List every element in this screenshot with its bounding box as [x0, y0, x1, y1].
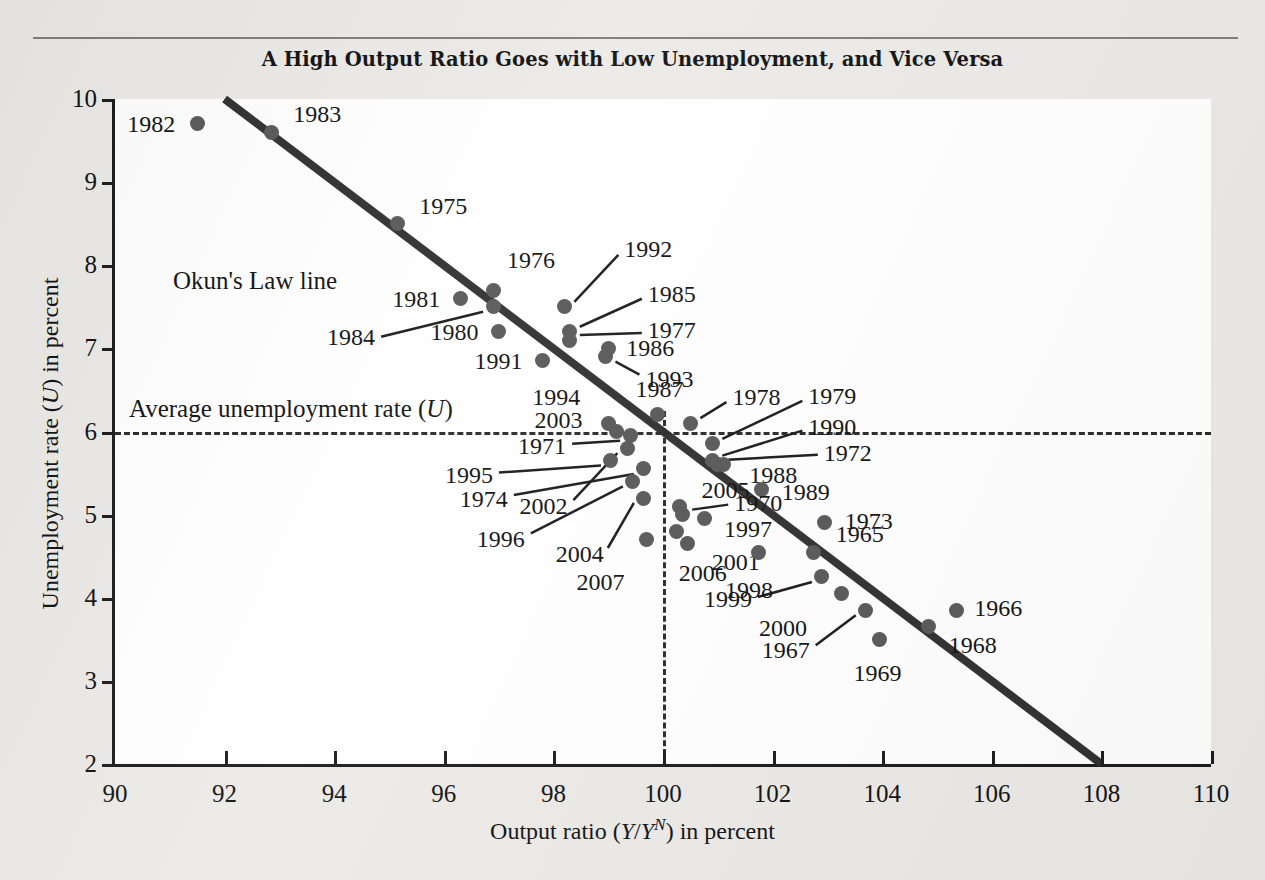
x-tick-label-94: 94 [322, 780, 347, 808]
data-point-1977 [562, 333, 577, 348]
point-label-2003: 2003 [534, 408, 582, 432]
y-tick-label-5: 5 [85, 501, 98, 529]
x-tick-label-102: 102 [754, 780, 792, 808]
x-tick-92 [225, 751, 228, 764]
y-tick-label-3: 3 [85, 667, 98, 695]
x-tick-94 [334, 751, 337, 764]
y-axis-title-suffix: ) in percent [37, 278, 63, 387]
point-label-1969: 1969 [853, 661, 901, 685]
x-axis-title-y: Y [621, 818, 634, 844]
point-label-1967: 1967 [762, 638, 810, 662]
x-tick-label-100: 100 [644, 780, 682, 808]
leader-line-1993 [615, 362, 639, 375]
data-point-1968 [921, 619, 936, 634]
data-point-1991 [535, 353, 550, 368]
point-label-1983: 1983 [293, 102, 341, 126]
y-tick-label-4: 4 [85, 584, 98, 612]
point-label-1982: 1982 [127, 112, 175, 136]
point-label-2007: 2007 [577, 570, 625, 594]
point-label-1970: 1970 [734, 491, 782, 515]
y-tick-2 [102, 764, 115, 767]
y-tick-10 [102, 99, 115, 102]
point-label-1995: 1995 [445, 463, 493, 487]
y-tick-8 [102, 265, 115, 268]
point-label-1999: 1999 [704, 587, 752, 611]
y-tick-label-6: 6 [85, 418, 98, 446]
data-point-2000 [834, 586, 849, 601]
x-tick-label-108: 108 [1083, 780, 1121, 808]
x-axis-title: Output ratio (Y/YN) in percent [0, 815, 1265, 845]
point-label-1968: 1968 [949, 633, 997, 657]
x-tick-104 [882, 751, 885, 764]
y-tick-label-9: 9 [85, 168, 98, 196]
data-point-1998 [751, 545, 766, 560]
y-tick-5 [102, 515, 115, 518]
data-point-1984 [486, 299, 501, 314]
x-axis-title-slash: / [634, 818, 641, 844]
point-label-1984: 1984 [327, 325, 375, 349]
leader-line-1971 [572, 441, 620, 444]
leader-line-1978 [700, 402, 726, 418]
leader-line-1992 [574, 255, 618, 302]
x-axis-title-superscript: N [654, 815, 666, 834]
data-point-2003 [609, 424, 624, 439]
data-point-1983 [264, 125, 279, 140]
data-point-1982 [190, 116, 205, 131]
leader-line-1972 [728, 455, 818, 460]
data-point-1967 [858, 603, 873, 618]
point-label-1972: 1972 [824, 441, 872, 465]
data-point-1976 [486, 283, 501, 298]
data-point-2001 [680, 536, 695, 551]
y-tick-4 [102, 598, 115, 601]
data-point-2004 [636, 491, 651, 506]
y-tick-label-8: 8 [85, 251, 98, 279]
x-tick-110 [1211, 751, 1214, 764]
figure-canvas: A High Output Ratio Goes with Low Unempl… [0, 0, 1265, 880]
plot-area: 2345678910 9092949698100102104106108110 … [112, 99, 1211, 767]
leader-line-1974 [514, 474, 634, 495]
y-tick-9 [102, 182, 115, 185]
natural-output-dashed-line [663, 411, 666, 764]
y-tick-label-2: 2 [85, 750, 98, 778]
data-point-1980 [491, 324, 506, 339]
data-point-1997 [697, 511, 712, 526]
point-label-1992: 1992 [624, 237, 672, 261]
data-point-1970 [675, 507, 690, 522]
point-label-1975: 1975 [419, 194, 467, 218]
y-tick-label-10: 10 [72, 85, 97, 113]
point-label-2002: 2002 [519, 494, 567, 518]
point-label-1965: 1965 [836, 522, 884, 546]
point-label-2000: 2000 [759, 616, 807, 640]
data-point-2007 [639, 532, 654, 547]
x-tick-label-90: 90 [103, 780, 128, 808]
point-label-2004: 2004 [556, 542, 604, 566]
point-label-1980: 1980 [431, 320, 479, 344]
data-point-1988 [716, 457, 731, 472]
x-axis-title-y2: Y [641, 818, 654, 844]
data-point-1974 [636, 461, 651, 476]
data-point-1973 [817, 515, 832, 530]
leader-line-2004 [608, 503, 634, 548]
point-label-1979: 1979 [808, 384, 856, 408]
data-point-1993 [598, 349, 613, 364]
y-tick-7 [102, 348, 115, 351]
okun-law-line-label: Okun's Law line [173, 267, 337, 295]
x-tick-label-106: 106 [973, 780, 1011, 808]
x-tick-102 [773, 751, 776, 764]
point-label-1971: 1971 [518, 434, 566, 458]
average-label-symbol: U [426, 395, 444, 422]
data-point-1999 [814, 569, 829, 584]
average-label-suffix: ) [444, 395, 452, 422]
y-axis-title: Unemployment rate (U) in percent [37, 94, 64, 794]
x-tick-106 [992, 751, 995, 764]
data-point-1978 [683, 416, 698, 431]
leader-line-1970 [692, 505, 728, 510]
point-label-1978: 1978 [732, 385, 780, 409]
point-label-1996: 1996 [477, 527, 525, 551]
point-label-1974: 1974 [460, 487, 508, 511]
x-tick-108 [1101, 751, 1104, 764]
x-tick-label-92: 92 [212, 780, 237, 808]
average-unemployment-label: Average unemployment rate (U) [129, 395, 453, 423]
point-label-1966: 1966 [974, 596, 1022, 620]
x-axis-title-suffix: ) in percent [666, 818, 775, 844]
